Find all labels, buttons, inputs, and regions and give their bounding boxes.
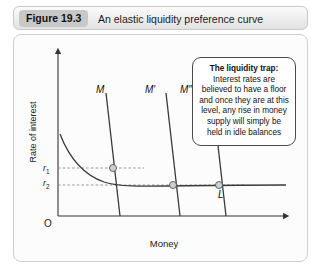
intersection-marker-r2-M-prime bbox=[170, 182, 177, 189]
origin-label: O bbox=[44, 218, 52, 229]
y-tick-label-r2: r2 bbox=[43, 178, 50, 190]
curve-label-L: L bbox=[218, 189, 224, 200]
curve-label-M-double-prime: M″ bbox=[180, 84, 192, 95]
figure-number-badge: Figure 19.3 bbox=[19, 10, 88, 27]
callout-title: The liquidity trap: bbox=[199, 64, 289, 75]
figure-caption: An elastic liquidity preference curve bbox=[98, 11, 263, 27]
x-axis-label: Money bbox=[114, 238, 214, 249]
curve-label-M: M bbox=[96, 84, 104, 95]
curve-label-M-prime: M′ bbox=[145, 84, 155, 95]
money-supply-line-M bbox=[106, 93, 120, 216]
intersection-marker-r1-M bbox=[110, 165, 117, 172]
y-axis-label: Rate of interest bbox=[28, 87, 38, 177]
callout-body: Interest rates are believed to have a fl… bbox=[199, 75, 289, 139]
y-tick-label-r1: r1 bbox=[43, 163, 50, 175]
figure-panel: Figure 19.3 An elastic liquidity prefere… bbox=[0, 0, 321, 269]
intersection-marker-r2-M-double-prime bbox=[216, 182, 223, 189]
chart-panel: Rate of interest Money O r1 r2 M M′ M″ L… bbox=[13, 34, 308, 262]
liquidity-trap-callout: The liquidity trap: Interest rates are b… bbox=[192, 57, 296, 146]
figure-header: Figure 19.3 An elastic liquidity prefere… bbox=[13, 6, 308, 30]
money-supply-line-M-prime bbox=[166, 93, 180, 216]
